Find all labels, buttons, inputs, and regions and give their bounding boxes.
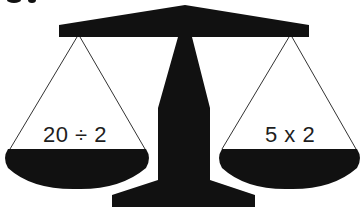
scale-beam <box>59 5 309 37</box>
clipped-heading-fragment <box>7 0 36 3</box>
right-pan <box>219 149 360 189</box>
left-pan-expression: 20 ÷ 2 <box>43 124 107 146</box>
balance-scale-diagram: 20 ÷ 2 5 x 2 <box>0 0 363 207</box>
right-pan-expression: 5 x 2 <box>265 124 315 146</box>
scale-graphic <box>0 0 363 207</box>
scale-pillar <box>112 37 255 207</box>
left-pan <box>5 149 149 189</box>
